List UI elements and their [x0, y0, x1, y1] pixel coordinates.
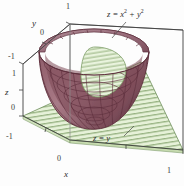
- tick-z-0: 0: [11, 104, 15, 112]
- paraboloid-equation-label: z = x2 + y2: [107, 9, 144, 18]
- tick-z-neg1: -1: [6, 133, 13, 141]
- plot-svg: [0, 0, 184, 186]
- tick-z-1: 1: [12, 70, 16, 78]
- plane-equation-label: z = y: [93, 134, 110, 143]
- paraboloid-rim-ticks: [48, 30, 139, 46]
- tick-y-1: 1: [66, 3, 70, 11]
- axis-label-y: y: [32, 19, 36, 28]
- tick-x-1: 1: [167, 167, 171, 175]
- tick-y-0: 0: [40, 29, 44, 37]
- paraboloid-exp-2: 2: [141, 8, 144, 14]
- axis-label-z: z: [5, 88, 9, 97]
- tick-y-neg1: -1: [8, 53, 15, 61]
- tick-x-0: 0: [57, 155, 61, 163]
- axis-label-x: x: [64, 170, 68, 179]
- figure-canvas: z = x2 + y2 z = y y z x 1 0 -1 1 0 -1 0 …: [0, 0, 184, 186]
